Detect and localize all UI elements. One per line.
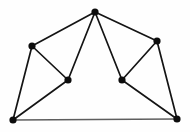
graph-edge-apex-to-mid-left — [68, 12, 95, 80]
graph-edge-upper-right-to-mid-right — [122, 41, 157, 80]
vertex-layer — [9, 8, 180, 123]
graph-vertex-upper-left — [28, 42, 35, 49]
graph-edge-apex-to-upper-left — [32, 12, 95, 46]
graph-vertex-bottom-right — [173, 115, 180, 122]
graph-vertex-mid-right — [118, 76, 125, 83]
graph-edge-bottom-left-to-bottom-right — [13, 119, 177, 120]
graph-vertex-bottom-left — [9, 116, 16, 123]
graph-canvas — [0, 0, 190, 132]
graph-vertex-apex — [91, 8, 98, 15]
graph-edge-upper-left-to-mid-left — [32, 46, 68, 80]
edge-layer — [13, 12, 177, 120]
graph-figure — [0, 0, 190, 132]
graph-vertex-mid-left — [64, 76, 71, 83]
graph-vertex-upper-right — [153, 37, 160, 44]
